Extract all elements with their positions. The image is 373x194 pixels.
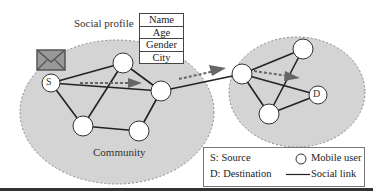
- social-profile-label: Social profile: [74, 17, 134, 29]
- bottom-separator: [0, 188, 373, 191]
- legend: S: Source D: Destination Mobile user Soc…: [203, 147, 365, 187]
- envelope-icon: [37, 50, 65, 70]
- social-profile-table: Name Age Gender City: [139, 13, 184, 64]
- destination-node-label: D: [313, 88, 320, 99]
- legend-destination: D: Destination: [210, 168, 272, 179]
- legend-source: S: Source: [210, 152, 251, 163]
- profile-field-age: Age: [140, 27, 183, 40]
- mobile-user-icon: [295, 153, 307, 165]
- profile-field-name: Name: [140, 14, 183, 27]
- social-link-icon: [286, 173, 310, 176]
- profile-field-city: City: [140, 52, 183, 64]
- profile-field-gender: Gender: [140, 39, 183, 52]
- legend-mobile-user: Mobile user: [311, 152, 361, 163]
- legend-social-link: Social link: [311, 168, 356, 179]
- source-node-label: S: [46, 76, 52, 87]
- community-label: Community: [93, 146, 146, 158]
